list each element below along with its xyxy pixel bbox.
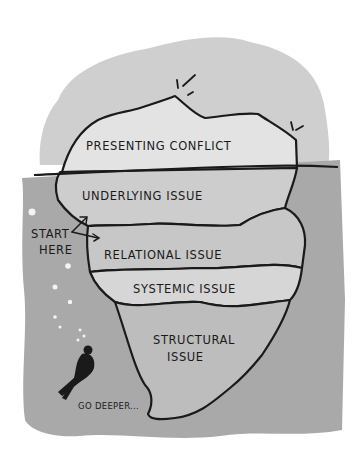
layer-label-underlying: UNDERLYING ISSUE	[82, 189, 203, 203]
layer-label-systemic: SYSTEMIC ISSUE	[133, 282, 236, 296]
layer-label-structural-2: ISSUE	[167, 350, 204, 364]
layer-label-relational: RELATIONAL ISSUE	[104, 248, 222, 262]
start-label: START	[31, 227, 70, 241]
go-deeper-label: GO DEEPER...	[78, 401, 139, 411]
here-label: HERE	[39, 243, 73, 257]
iceberg-illustration: PRESENTING CONFLICT UNDERLYING ISSUE REL…	[0, 0, 362, 462]
layer-label-structural: STRUCTURAL	[153, 333, 235, 347]
layer-label-presenting: PRESENTING CONFLICT	[86, 139, 232, 153]
